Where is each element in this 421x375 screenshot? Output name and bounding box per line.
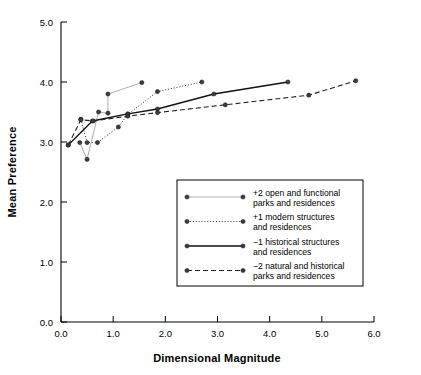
y-tick-label: 4.0 [40, 77, 53, 88]
y-tick-label: 5.0 [40, 17, 53, 28]
data-point [155, 111, 159, 115]
legend-label-line2: and residences [253, 247, 311, 257]
data-point [85, 141, 89, 145]
y-axis-title: Mean Preference [6, 126, 18, 217]
legend-label-line1: −2 natural and historical [253, 261, 345, 271]
data-point [66, 143, 70, 147]
y-tick-label: 0.0 [40, 317, 53, 328]
x-tick-label: 1.0 [107, 328, 120, 339]
legend-label-line1: +1 modern structures [253, 212, 334, 222]
data-point [155, 90, 159, 94]
legend-marker-end [241, 244, 245, 248]
legend-marker-end [241, 195, 245, 199]
legend-marker-start [185, 219, 189, 223]
chart-legend: +2 open and functionalparks and residenc… [177, 180, 363, 286]
x-tick-label: 2.0 [159, 328, 172, 339]
data-point [200, 80, 204, 84]
data-point [116, 125, 120, 129]
x-tick-label: 5.0 [315, 328, 328, 339]
legend-label-line2: parks and residences [253, 198, 335, 208]
data-point [354, 79, 358, 83]
legend-marker-start [185, 244, 189, 248]
x-tick-label: 0.0 [54, 328, 67, 339]
legend-label-line2: parks and residences [253, 271, 335, 281]
legend-label-line1: +2 open and functional [253, 188, 340, 198]
legend-marker-end [241, 268, 245, 272]
data-point [223, 103, 227, 107]
data-point [91, 119, 95, 123]
data-point [85, 157, 89, 161]
y-tick-label: 3.0 [40, 137, 53, 148]
mean-preference-line-chart: 0.01.02.03.04.05.06.0 0.01.02.03.04.05.0… [0, 0, 421, 375]
data-point [140, 81, 144, 85]
data-point [212, 92, 216, 96]
legend-marker-start [185, 268, 189, 272]
data-point [78, 141, 82, 145]
data-point [286, 80, 290, 84]
x-axis-title: Dimensional Magnitude [153, 352, 281, 364]
chart-figure: 0.01.02.03.04.05.06.0 0.01.02.03.04.05.0… [0, 0, 421, 375]
x-tick-label: 6.0 [367, 328, 380, 339]
data-point [106, 92, 110, 96]
x-tick-label: 3.0 [211, 328, 224, 339]
legend-label-line2: and residences [253, 222, 311, 232]
legend-marker-end [241, 219, 245, 223]
legend-label-line1: −1 historical structures [253, 237, 339, 247]
data-point [307, 93, 311, 97]
data-point [106, 111, 110, 115]
data-point [95, 141, 99, 145]
y-tick-label: 1.0 [40, 257, 53, 268]
y-tick-label: 2.0 [40, 197, 53, 208]
x-tick-label: 4.0 [263, 328, 276, 339]
data-point [126, 114, 130, 118]
legend-marker-start [185, 195, 189, 199]
data-point [96, 110, 100, 114]
data-point [79, 118, 83, 122]
